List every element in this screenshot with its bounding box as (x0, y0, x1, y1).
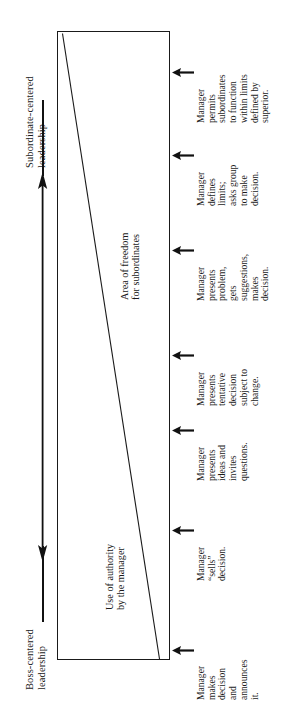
region-label-authority: Use of authority by the manager (104, 544, 127, 610)
stage-label-4: Manager presents tentative decision subj… (196, 369, 260, 406)
stage-arrow-3 (172, 425, 194, 436)
continuum-bottom-connector (42, 546, 44, 622)
stage-arrow-2 (172, 525, 194, 536)
stage-label-1: Manager makes decision and announces it. (196, 660, 260, 701)
stage-arrow-1 (172, 645, 194, 656)
region-label-freedom: Area of freedom for subordinates (119, 233, 142, 300)
region-freedom-line2: for subordinates (130, 233, 141, 300)
continuum-bottom-label: Boss-centered leadership (24, 629, 48, 690)
stage-7-line-7: superior. (260, 74, 271, 123)
stage-2-line-3: decision. (217, 547, 228, 581)
stage-arrow-7 (172, 67, 194, 78)
stage-label-3: Manager presents ideas and invites quest… (196, 442, 250, 481)
region-authority-line2: by the manager (115, 544, 126, 610)
stage-6-line-6: decision. (250, 165, 261, 206)
continuum-bottom-label-line2: leadership (36, 629, 48, 690)
continuum-double-arrow (28, 172, 58, 562)
stage-label-6: Manager defines limits; asks group to ma… (196, 165, 260, 206)
stage-1-line-6: it. (250, 660, 261, 701)
stage-4-line-6: change. (250, 369, 261, 406)
region-authority-line1: Use of authority (104, 544, 115, 610)
diagram-canvas: Subordinate-centered leadership Boss-cen… (0, 0, 286, 715)
stage-arrow-5 (172, 245, 194, 256)
continuum-top-label-line1: Subordinate-centered (24, 76, 36, 168)
stage-5-line-7: decision. (260, 254, 271, 301)
stage-label-7: Manager permits subordinates to function… (196, 74, 271, 123)
continuum-top-label: Subordinate-centered leadership (24, 76, 48, 168)
continuum-bottom-label-line1: Boss-centered (24, 629, 36, 690)
stage-arrow-6 (172, 150, 194, 161)
stage-label-2: Manager “sells” decision. (196, 547, 228, 581)
continuum-top-connector (42, 100, 44, 176)
stage-arrow-4 (172, 350, 194, 361)
stage-3-line-5: questions. (239, 442, 250, 481)
stage-label-5: Manager presents problem, gets suggestio… (196, 254, 271, 301)
region-freedom-line1: Area of freedom (119, 233, 130, 300)
